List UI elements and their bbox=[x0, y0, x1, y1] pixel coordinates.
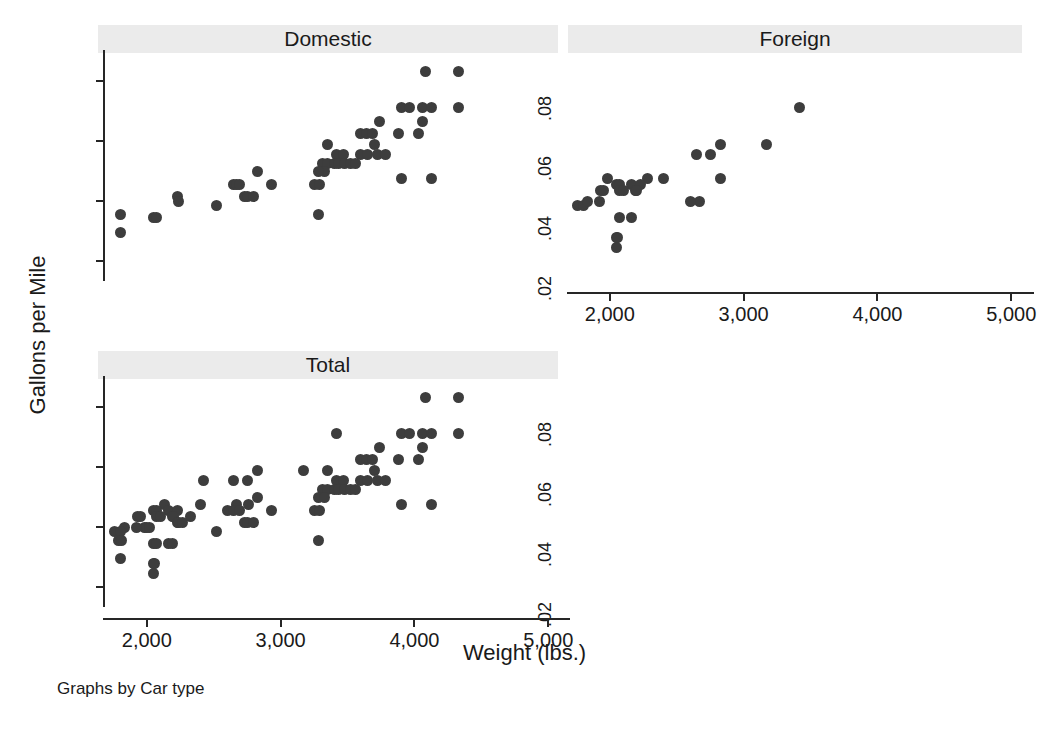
y-axis-line bbox=[103, 376, 105, 607]
data-point bbox=[453, 392, 464, 403]
x-axis-tick-label: 4,000 bbox=[852, 303, 902, 326]
data-point bbox=[374, 442, 385, 453]
data-point bbox=[115, 209, 126, 220]
x-axis-tick bbox=[413, 620, 415, 627]
data-point bbox=[367, 454, 378, 465]
data-point bbox=[618, 185, 629, 196]
y-axis-tick-label: .06 bbox=[535, 467, 556, 523]
data-point bbox=[144, 522, 155, 533]
data-point bbox=[380, 149, 391, 160]
data-point bbox=[380, 475, 391, 486]
y-axis-line bbox=[103, 50, 105, 281]
data-point bbox=[331, 428, 342, 439]
data-point bbox=[614, 212, 625, 223]
plot-area-total: .02.04.06.082,0003,0004,0005,000 bbox=[104, 388, 559, 593]
data-point bbox=[167, 538, 178, 549]
x-axis-tick-label: 5,000 bbox=[523, 629, 573, 652]
data-point bbox=[426, 499, 437, 510]
data-point bbox=[393, 128, 404, 139]
data-point bbox=[453, 428, 464, 439]
data-point bbox=[151, 212, 162, 223]
data-point bbox=[252, 166, 263, 177]
x-axis-tick-label: 4,000 bbox=[389, 629, 439, 652]
data-point bbox=[155, 511, 166, 522]
data-point bbox=[350, 158, 361, 169]
y-axis-tick-label: .06 bbox=[535, 141, 556, 197]
x-axis-tick bbox=[743, 294, 745, 301]
panel-domestic: Domestic .02.04.06.08 bbox=[0, 0, 560, 310]
data-point bbox=[413, 454, 424, 465]
data-point bbox=[453, 66, 464, 77]
graph-note: Graphs by Car type bbox=[57, 679, 204, 699]
panel-foreign: Foreign 2,0003,0004,0005,000 bbox=[560, 0, 1049, 330]
data-point bbox=[598, 185, 609, 196]
data-point bbox=[426, 102, 437, 113]
data-point bbox=[393, 454, 404, 465]
data-point bbox=[243, 499, 254, 510]
data-point bbox=[228, 475, 239, 486]
data-point bbox=[694, 196, 705, 207]
data-point bbox=[148, 568, 159, 579]
y-axis-tick bbox=[96, 526, 103, 528]
data-point bbox=[322, 139, 333, 150]
data-point bbox=[715, 173, 726, 184]
data-point bbox=[266, 505, 277, 516]
x-axis-tick-label: 5,000 bbox=[986, 303, 1036, 326]
data-point bbox=[135, 511, 146, 522]
data-point bbox=[248, 517, 259, 528]
x-axis-line bbox=[103, 618, 570, 620]
data-point bbox=[298, 465, 309, 476]
scatter-figure: Gallons per Mile Weight (lbs.) Graphs by… bbox=[0, 0, 1049, 737]
y-axis-tick-label: .02 bbox=[535, 261, 556, 317]
data-point bbox=[211, 526, 222, 537]
data-point bbox=[594, 196, 605, 207]
data-point bbox=[248, 191, 259, 202]
data-point bbox=[582, 196, 593, 207]
data-point bbox=[404, 428, 415, 439]
x-axis-tick bbox=[280, 620, 282, 627]
data-point bbox=[453, 102, 464, 113]
data-point bbox=[319, 492, 330, 503]
data-point bbox=[426, 173, 437, 184]
data-point bbox=[195, 499, 206, 510]
data-point bbox=[611, 242, 622, 253]
data-point bbox=[314, 179, 325, 190]
data-point bbox=[794, 102, 805, 113]
data-point bbox=[234, 505, 245, 516]
x-axis-tick-label: 3,000 bbox=[256, 629, 306, 652]
data-point bbox=[252, 492, 263, 503]
data-point bbox=[658, 173, 669, 184]
panel-title-total: Total bbox=[98, 351, 558, 379]
x-axis-line bbox=[567, 292, 1034, 294]
data-point bbox=[313, 166, 324, 177]
y-axis-tick bbox=[96, 406, 103, 408]
data-point bbox=[234, 179, 245, 190]
x-axis-tick bbox=[547, 620, 549, 627]
data-point bbox=[685, 196, 696, 207]
data-point bbox=[417, 442, 428, 453]
y-axis-tick bbox=[96, 260, 103, 262]
data-point bbox=[211, 200, 222, 211]
x-axis-tick bbox=[609, 294, 611, 301]
data-point bbox=[313, 209, 324, 220]
y-axis-tick-label: .08 bbox=[535, 407, 556, 463]
y-axis-tick-label: .08 bbox=[535, 81, 556, 137]
data-point bbox=[691, 149, 702, 160]
x-axis-tick bbox=[146, 620, 148, 627]
x-axis-tick-label: 3,000 bbox=[719, 303, 769, 326]
data-point bbox=[322, 465, 333, 476]
y-axis-tick-label: .04 bbox=[535, 527, 556, 583]
data-point bbox=[413, 128, 424, 139]
data-point bbox=[761, 139, 772, 150]
data-point bbox=[151, 538, 162, 549]
y-axis-tick-label: .04 bbox=[535, 201, 556, 257]
data-point bbox=[705, 149, 716, 160]
x-axis-tick bbox=[876, 294, 878, 301]
data-point bbox=[242, 475, 253, 486]
data-point bbox=[631, 185, 642, 196]
data-point bbox=[367, 128, 378, 139]
data-point bbox=[417, 116, 428, 127]
data-point bbox=[173, 196, 184, 207]
data-point bbox=[715, 139, 726, 150]
panel-title-foreign: Foreign bbox=[568, 25, 1022, 53]
